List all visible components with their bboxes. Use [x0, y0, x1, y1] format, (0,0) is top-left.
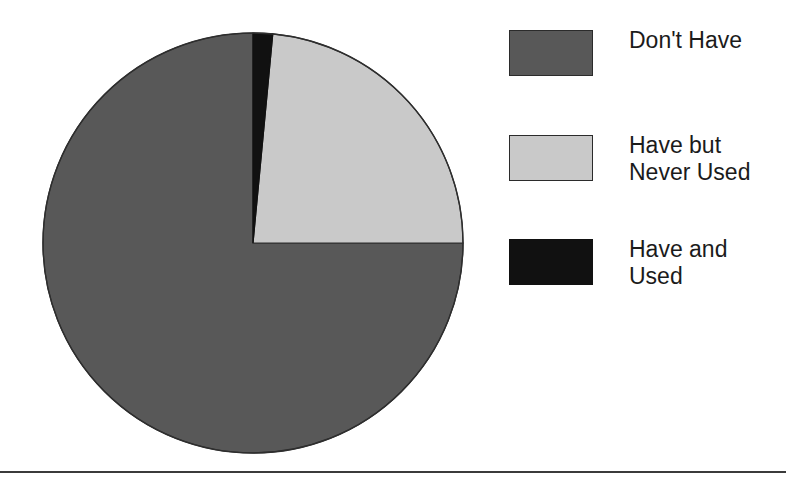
legend-item-have-and-used[interactable]: Have and Used: [509, 239, 771, 290]
legend-label-have-and-used: Have and Used: [629, 236, 771, 290]
legend-swatch-dont-have: [509, 30, 593, 76]
pie-chart-figure: Don't Have Have but Never Used Have and …: [0, 0, 786, 482]
legend-label-dont-have: Don't Have: [629, 27, 771, 54]
pie-slice-have-but-never-used[interactable]: [253, 34, 463, 243]
bottom-divider: [0, 471, 786, 473]
legend-label-have-but-never-used: Have but Never Used: [629, 132, 771, 186]
legend-swatch-have-and-used: [509, 239, 593, 285]
legend-item-dont-have[interactable]: Don't Have: [509, 30, 771, 76]
pie-plot-area: [0, 0, 500, 470]
pie-svg: [0, 0, 500, 470]
chart-legend: Don't Have Have but Never Used Have and …: [509, 26, 771, 290]
legend-swatch-have-but-never-used: [509, 135, 593, 181]
legend-item-have-but-never-used[interactable]: Have but Never Used: [509, 135, 771, 186]
